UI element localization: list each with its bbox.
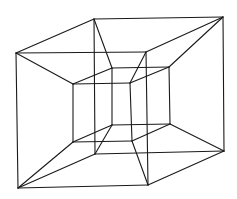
edge-inner_front_tr-inner_front_br [130,83,132,141]
edge-outer_front_tr-outer_back_tr [146,17,223,52]
edge-outer_back_bl-inner_back_bl [95,125,112,154]
edge-inner_front_tl-inner_front_tr [73,83,130,84]
edge-outer_front_br-outer_front_bl [18,185,148,188]
tesseract-edges [16,17,224,188]
edge-outer_front_tr-outer_front_br [146,52,148,185]
edge-inner_front_bl-inner_back_bl [73,125,112,142]
edge-inner_front_tl-inner_back_tl [73,68,112,84]
edge-outer_front_bl-outer_back_bl [18,154,95,188]
edge-inner_front_tr-inner_back_tr [130,67,169,83]
edge-outer_front_bl-outer_front_tl [16,53,18,188]
edge-inner_back_br-inner_back_bl [112,124,170,125]
edge-outer_front_bl-inner_front_bl [18,142,73,188]
edge-outer_back_tl-outer_back_tr [94,17,223,19]
edge-outer_back_tl-inner_back_tl [94,19,112,68]
edge-outer_back_br-inner_back_br [170,124,224,151]
edge-outer_back_br-outer_back_bl [95,151,224,154]
edge-inner_back_tl-inner_back_tr [112,67,169,68]
edge-inner_front_br-inner_back_br [132,124,170,141]
edge-outer_front_br-outer_back_br [148,151,224,185]
edge-outer_front_tl-inner_front_tl [16,53,73,84]
edge-inner_back_tr-inner_back_br [169,67,170,124]
edge-outer_front_tl-outer_back_tl [16,19,94,53]
edge-outer_front_tl-outer_front_tr [16,52,146,53]
edge-outer_front_br-inner_front_br [132,141,148,185]
edge-outer_back_tr-inner_back_tr [169,17,223,67]
edge-outer_back_bl-outer_back_tl [94,19,95,154]
edge-outer_back_tr-outer_back_br [223,17,224,151]
tesseract-diagram [0,0,237,199]
